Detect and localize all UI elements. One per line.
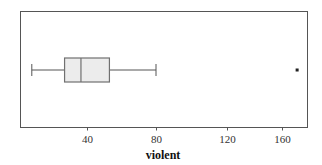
- iqr-box: [65, 58, 110, 82]
- x-tick-label-40: 40: [82, 133, 94, 145]
- x-axis-title: violent: [146, 148, 181, 162]
- x-axis-tick-labels: 4080120160: [82, 133, 291, 145]
- boxplot-chart: 4080120160 violent: [0, 0, 322, 165]
- x-tick-label-160: 160: [274, 133, 291, 145]
- outlier-point-0: [296, 69, 299, 72]
- x-tick-label-120: 120: [219, 133, 236, 145]
- x-tick-label-80: 80: [151, 133, 163, 145]
